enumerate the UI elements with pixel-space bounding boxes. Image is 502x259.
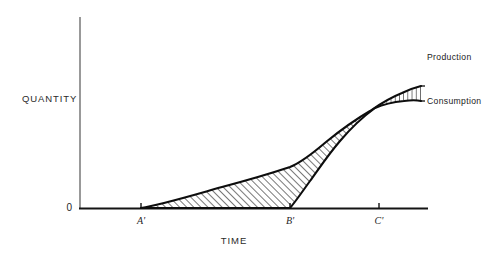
production-surplus-region [141, 108, 375, 208]
origin-label: 0 [66, 202, 72, 213]
production-label: Production [427, 52, 472, 62]
quantity-time-chart: QUANTITY TIME 0 A' B' C' Production Cons… [0, 0, 502, 259]
tick-label-a: A' [136, 215, 146, 226]
consumption-label: Consumption [427, 96, 482, 106]
chart-figure: QUANTITY TIME 0 A' B' C' Production Cons… [0, 0, 502, 259]
series-leader-lines [421, 86, 425, 101]
tick-label-c: C' [375, 215, 385, 226]
tick-label-b: B' [286, 215, 295, 226]
y-axis-label: QUANTITY [22, 93, 77, 104]
x-axis-label: TIME [221, 235, 247, 246]
